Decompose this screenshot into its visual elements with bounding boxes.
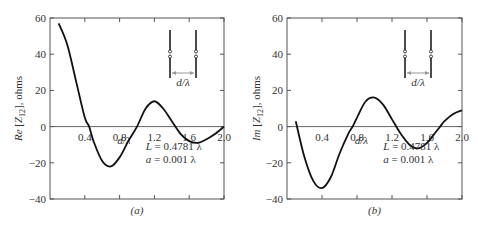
panel-label: (a)	[131, 204, 144, 217]
x-axis-title: d/λ	[355, 134, 369, 146]
plot-frame	[50, 18, 224, 199]
y-tick-label: 20	[35, 84, 47, 96]
parameter-annotation: a = 0.001 λ	[383, 153, 434, 165]
y-tick-label: 40	[272, 48, 284, 60]
panel-label: (b)	[368, 204, 381, 217]
panel-b: 6040200−20−400.40.81.21.62.0d/λIm [Z12],…	[250, 12, 469, 217]
chart-root: 6040200−20−400.40.81.21.62.0d/λRe [Z12],…	[0, 0, 478, 225]
y-tick-label: −20	[29, 157, 47, 169]
panel-a: 6040200−20−400.40.81.21.62.0d/λRe [Z12],…	[12, 12, 231, 217]
y-tick-label: 40	[35, 48, 47, 60]
parameter-annotation: a = 0.001 λ	[146, 153, 197, 165]
parameter-annotation: L = 0.4781 λ	[145, 140, 203, 152]
dipole-inset-diagram: d/λ	[169, 30, 198, 88]
inset-spacing-label: d/λ	[411, 76, 425, 88]
y-tick-label: 20	[272, 84, 284, 96]
x-tick-label: 2.0	[217, 131, 231, 143]
y-tick-label: 60	[35, 12, 47, 24]
y-tick-label: −40	[29, 193, 47, 205]
x-tick-label: 2.0	[455, 131, 469, 143]
plot-frame	[287, 18, 462, 199]
parameter-annotation: L = 0.4781 λ	[382, 140, 440, 152]
y-tick-label: 0	[41, 121, 47, 133]
y-tick-label: 0	[278, 121, 284, 133]
y-tick-label: −40	[266, 193, 284, 205]
y-axis-title: Im [Z12], ohms	[250, 76, 265, 142]
dipole-inset-diagram: d/λ	[404, 30, 433, 88]
inset-spacing-label: d/λ	[176, 76, 190, 88]
y-tick-label: 60	[272, 12, 284, 24]
y-axis-title: Re [Z12], ohms	[12, 76, 27, 142]
y-tick-label: −20	[266, 157, 284, 169]
x-tick-label: 0.4	[315, 131, 329, 143]
